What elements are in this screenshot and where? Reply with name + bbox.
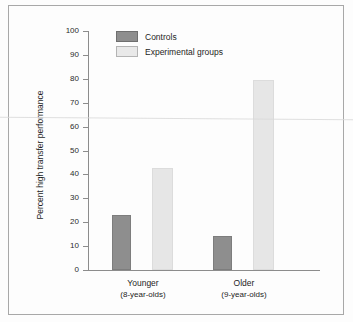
- figure-container: 100 90 80 70 60 50 40 30 20 10 0 Percent…: [0, 0, 353, 322]
- y-tick-label-100: 100: [39, 27, 79, 35]
- bar-experimental-younger: [152, 168, 173, 270]
- x-axis-line: [88, 270, 320, 271]
- y-tick-80: [83, 79, 88, 80]
- legend-item-controls: Controls: [116, 31, 223, 42]
- y-tick-20: [83, 222, 88, 223]
- y-tick-label-30: 30: [39, 194, 79, 202]
- legend-swatch-controls-icon: [116, 31, 138, 42]
- legend-label-experimental: Experimental groups: [145, 47, 223, 57]
- y-tick-label-10: 10: [39, 242, 79, 250]
- y-tick-0: [83, 270, 88, 271]
- y-tick-label-20: 20: [39, 218, 79, 226]
- legend-swatch-experimental-icon: [116, 46, 138, 57]
- legend: Controls Experimental groups: [116, 31, 223, 61]
- x-category-label-older: Older (9-year-olds): [184, 278, 304, 300]
- y-tick-40: [83, 174, 88, 175]
- bar-experimental-older: [253, 80, 274, 270]
- y-tick-label-90: 90: [39, 51, 79, 59]
- y-tick-30: [83, 198, 88, 199]
- x-category-name-older: Older: [234, 278, 255, 288]
- y-tick-label-70: 70: [39, 99, 79, 107]
- y-tick-label-80: 80: [39, 75, 79, 83]
- bar-controls-older: [213, 236, 232, 270]
- x-category-sub-older: (9-year-olds): [184, 289, 304, 300]
- plot-area: 100 90 80 70 60 50 40 30 20 10 0 Percent…: [0, 0, 353, 322]
- y-tick-50: [83, 151, 88, 152]
- legend-label-controls: Controls: [145, 32, 177, 42]
- y-tick-label-50: 50: [39, 147, 79, 155]
- y-tick-label-40: 40: [39, 170, 79, 178]
- y-axis-title: Percent high transfer performance: [35, 70, 45, 240]
- y-tick-60: [83, 127, 88, 128]
- y-tick-100: [83, 31, 88, 32]
- legend-item-experimental: Experimental groups: [116, 46, 223, 57]
- y-tick-90: [83, 55, 88, 56]
- x-category-name-younger: Younger: [127, 278, 158, 288]
- y-tick-70: [83, 103, 88, 104]
- y-tick-label-60: 60: [39, 123, 79, 131]
- y-axis-line: [88, 31, 89, 271]
- y-tick-10: [83, 246, 88, 247]
- bar-controls-younger: [112, 215, 131, 270]
- y-tick-label-0: 0: [39, 266, 79, 274]
